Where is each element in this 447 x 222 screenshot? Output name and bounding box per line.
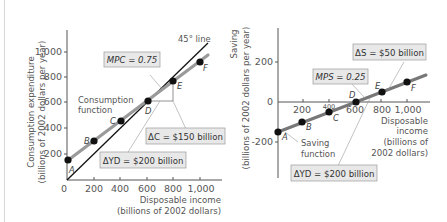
right-ylabel-line2: (billions of 2002 dollars per year) [241,27,251,170]
delta-s-label: ΔS = $50 billion [355,48,424,58]
point-label: C [333,113,339,123]
delta-yd-label-left: ΔYD = $200 billion [103,156,184,166]
mpc-label: MPC = 0.75 [107,55,157,65]
left-ytick: 1,000 [35,46,62,57]
point-label: E [375,81,381,91]
right-xlabel-line1: Disposable [381,116,428,126]
left-xtick: 200 [85,183,103,194]
right-ytick: 0 [267,96,273,107]
delta-yd-label-right: ΔYD = $200 billion [294,169,375,179]
consumption-chart: Consumption expenditure (billions of 200… [26,30,225,216]
left-ytick: 600 [44,96,62,107]
point-label: C [110,116,116,126]
right-xlabel-line2: income [397,126,428,136]
left-xlabel-line1: Disposable income [140,195,221,205]
point-label: A [68,165,75,175]
left-xtick: 600 [138,183,156,194]
mps-label: MPS = 0.25 [316,72,366,82]
point-label: F [203,63,208,73]
point-label: B [306,122,312,132]
right-ylabel-line1: Saving [229,29,239,58]
left-ytick: 400 [44,122,62,133]
right-y-ticks: 200 0 -200 [251,56,278,147]
point-b [90,137,97,144]
left-ylabel-line1: Consumption expenditure [26,56,36,167]
saving-function-label-line2: function [301,149,335,159]
saving-function-label-line1: Saving [301,138,329,148]
right-xlabel-line3: (billions of [383,137,429,147]
left-ytick: 200 [44,148,62,159]
left-xtick: 400 [111,183,129,194]
dyd-leader [128,101,160,152]
point-a [64,156,71,163]
point-d [144,97,151,104]
point-b [298,118,305,125]
point-label: F [411,83,416,93]
forty-five-line-label: 45° line [178,34,211,44]
right-xtick: 800 [373,104,391,115]
point-c [117,117,124,124]
right-ytick: 200 [255,56,273,67]
left-ytick: 800 [44,71,62,82]
dc-leader [173,101,186,129]
point-c [325,108,332,115]
point-label: A [281,132,288,142]
charts-canvas: Consumption expenditure (billions of 200… [0,0,447,222]
left-xlabel-line2: (billions of 2002 dollars) [117,206,221,216]
left-xtick: 0 [61,183,67,194]
left-ylabel-line2: (billions of 2002 dollars per year) [37,41,47,184]
left-xtick: 800 [164,183,182,194]
right-ytick: -200 [251,136,273,147]
point-label: B [84,136,90,146]
delta-c-label: ΔC = $150 billion [148,132,223,142]
point-a [274,128,281,135]
right-xtick: 1,000 [394,104,421,115]
point-label: D [349,90,356,100]
right-xlabel-line4: 2002 dollars) [371,148,428,158]
point-label: D [145,106,152,116]
consumption-function-label-line1: Consumption [78,95,133,105]
point-e [169,77,176,84]
point-label: E [177,81,183,91]
point-f [403,78,410,85]
consumption-function-label-line2: function [78,105,112,115]
right-xtick: 200 [293,104,311,115]
mpc-leader [150,75,163,90]
left-xtick: 1,000 [187,183,214,194]
saving-chart: Saving (billions of 2002 dollars per yea… [229,27,430,181]
